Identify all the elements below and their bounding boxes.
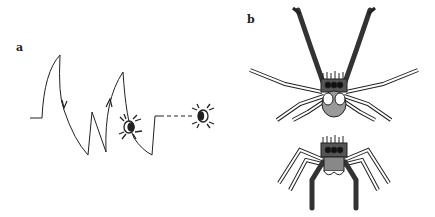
- approach-path: [30, 55, 160, 155]
- spider-legs-lowered-illustration: [279, 135, 389, 208]
- spider-small-icon: [119, 114, 142, 139]
- panel-a-diagram: [30, 55, 192, 155]
- spider-target-icon: [192, 104, 214, 128]
- spider-legs-raised-illustration: [250, 8, 418, 120]
- raised-leg-right: [344, 10, 370, 85]
- raised-leg-left: [298, 10, 324, 85]
- figure-canvas: [0, 0, 435, 217]
